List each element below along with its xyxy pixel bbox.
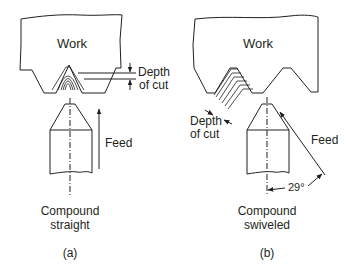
feed-label-b: Feed [311,133,338,147]
caption-a-line2: straight [30,218,110,232]
depth-of-cut-label-a-line1: Depth [138,65,170,79]
caption-b-line1: Compound [227,204,307,218]
angle-label-b: 29° [288,180,305,194]
thread-cutting-diagram [0,0,348,280]
caption-b-line2: swiveled [227,218,307,232]
tool-a [50,104,92,174]
panel-label-a: (a) [50,246,90,260]
depth-of-cut-label-b-line2: of cut [190,127,219,141]
depth-of-cut-label-a-line2: of cut [139,78,168,92]
cut-lines-b [214,69,253,109]
work-block-b [193,15,318,93]
tool-b [247,104,289,174]
work-label-b: Work [243,37,273,51]
caption-a-line1: Compound [30,204,110,218]
depth-of-cut-label-b-line1: Depth [190,114,222,128]
work-label-a: Work [57,37,87,51]
panel-label-b: (b) [247,246,287,260]
feed-label-a: Feed [105,136,132,150]
